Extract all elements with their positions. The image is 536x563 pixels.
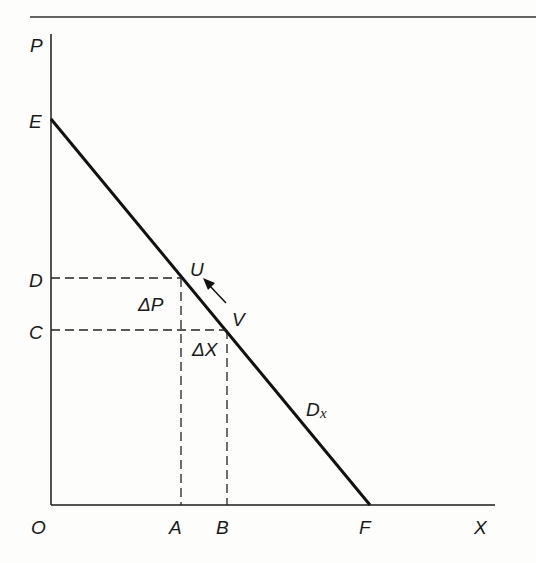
label-A: A [168, 517, 182, 538]
label-X: X [473, 517, 488, 538]
label-delta-X: ΔX [191, 339, 219, 360]
demand-diagram: P E D C U V ΔP ΔX D x O A B F X [0, 0, 536, 563]
arrow-head-icon [203, 278, 215, 290]
label-E: E [29, 111, 42, 132]
label-O: O [31, 517, 46, 538]
label-V: V [232, 309, 247, 330]
movement-arrow [209, 285, 226, 303]
demand-curve [51, 119, 370, 505]
label-F: F [359, 517, 372, 538]
label-delta-P: ΔP [137, 294, 164, 315]
label-curve-subscript: x [319, 405, 327, 421]
label-U: U [190, 259, 204, 280]
label-D: D [29, 270, 43, 291]
label-P: P [30, 35, 43, 56]
label-C: C [29, 322, 43, 343]
label-curve-D: D [306, 399, 320, 420]
label-B: B [216, 517, 229, 538]
